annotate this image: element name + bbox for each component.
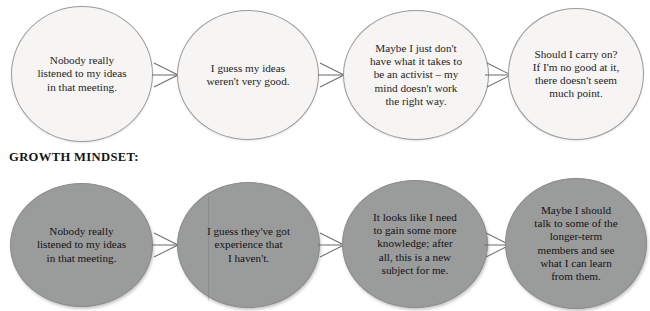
growth-node-1: Nobody really listened to my ideas in th… (10, 183, 153, 307)
mindset-comparison-diagram: Nobody really listened to my ideas in th… (0, 0, 650, 311)
growth-mindset-row: Nobody really listened to my ideas in th… (0, 178, 650, 311)
growth-arrow-1 (152, 232, 180, 258)
growth-node-3: It looks like I need to gain some more k… (342, 180, 488, 308)
growth-mindset-label: GROWTH MINDSET: (9, 150, 139, 165)
fixed-node-4: Should I carry on? If I'm no good at it,… (508, 8, 644, 140)
growth-node-4-text: Maybe I should talk to some of the longe… (534, 204, 617, 283)
fixed-mindset-row: Nobody really listened to my ideas in th… (0, 0, 650, 150)
growth-node-2: I guess they've got experience that I ha… (177, 182, 320, 308)
fixed-node-2: I guess my ideas weren't very good. (177, 10, 319, 140)
fixed-node-1: Nobody really listened to my ideas in th… (11, 6, 153, 142)
growth-node-2-text: I guess they've got experience that I ha… (207, 225, 290, 265)
fixed-arrow-2 (318, 62, 346, 88)
growth-node-1-text: Nobody really listened to my ideas in th… (37, 225, 126, 265)
growth-node-3-text: It looks like I need to gain some more k… (373, 211, 457, 277)
fixed-node-4-text: Should I carry on? If I'm no good at it,… (533, 48, 620, 101)
fixed-arrow-1 (152, 62, 180, 88)
growth-node-4: Maybe I should talk to some of the longe… (505, 178, 647, 309)
fixed-node-2-text: I guess my ideas weren't very good. (206, 62, 289, 88)
fixed-node-1-text: Nobody really listened to my ideas in th… (37, 54, 126, 94)
fixed-node-3: Maybe I just don't have what it takes to… (343, 10, 489, 140)
fixed-node-3-text: Maybe I just don't have what it takes to… (370, 42, 462, 108)
